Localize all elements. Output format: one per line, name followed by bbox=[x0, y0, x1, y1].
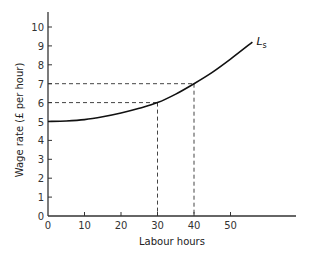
y-tick-label: 7 bbox=[38, 79, 44, 90]
y-tick-label: 3 bbox=[38, 154, 44, 165]
x-tick-label: 30 bbox=[151, 220, 164, 231]
x-axis-ticks: 01020304050 bbox=[45, 212, 237, 231]
dashed-guide-lines bbox=[48, 84, 194, 216]
labour-supply-curve bbox=[48, 42, 252, 121]
y-tick-label: 6 bbox=[38, 98, 44, 109]
x-tick-label: 10 bbox=[78, 220, 91, 231]
y-tick-label: 8 bbox=[38, 60, 44, 71]
x-tick-label: 0 bbox=[45, 220, 51, 231]
y-tick-label: 4 bbox=[38, 135, 44, 146]
y-tick-label: 9 bbox=[38, 41, 44, 52]
x-axis-title: Labour hours bbox=[139, 236, 205, 247]
labour-supply-chart: 012345678910 01020304050 Ls Labour hours… bbox=[0, 0, 311, 255]
y-tick-label: 0 bbox=[38, 211, 44, 222]
y-tick-label: 5 bbox=[38, 117, 44, 128]
y-axis-title: Wage rate (£ per hour) bbox=[14, 63, 25, 178]
x-tick-label: 50 bbox=[224, 220, 237, 231]
y-tick-label: 1 bbox=[38, 192, 44, 203]
y-tick-label: 2 bbox=[38, 173, 44, 184]
x-tick-label: 20 bbox=[115, 220, 128, 231]
series-label-ls: Ls bbox=[256, 35, 266, 50]
x-tick-label: 40 bbox=[188, 220, 201, 231]
y-tick-label: 10 bbox=[31, 22, 44, 33]
